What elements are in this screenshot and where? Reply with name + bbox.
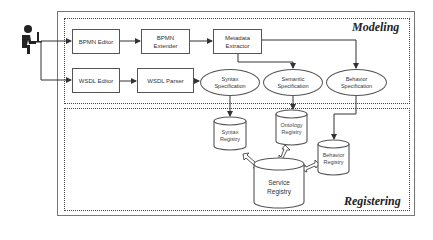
behavior-spec-line2: Specification — [341, 83, 372, 90]
metadata-extractor-node: Metadata Extractor — [213, 29, 262, 54]
bpmn-editor-label: BPMN Editor — [79, 38, 114, 46]
syntax-spec-line1: Syntax — [222, 76, 239, 83]
semantic-specification-node: Semantic Specification — [263, 69, 323, 96]
metadata-extractor-line2: Extractor — [225, 42, 249, 50]
service-registry-node: Service Registry — [254, 178, 304, 196]
wsdl-parser-label: WSDL Parser — [147, 77, 183, 85]
wsdl-parser-node: WSDL Parser — [137, 68, 194, 93]
bpmn-editor-node: BPMN Editor — [72, 29, 120, 54]
metadata-extractor-line1: Metadata — [225, 34, 250, 42]
behavior-specification-node: Behavior Specification — [326, 69, 387, 96]
user-at-computer-icon — [22, 25, 42, 54]
bpmn-extender-line2: Extender — [153, 42, 177, 50]
service-registry-line1: Service — [254, 178, 304, 187]
syntax-registry-line1: Syntax — [214, 129, 246, 136]
wsdl-editor-label: WSDL Editor — [79, 77, 113, 85]
behavior-registry-line2: Registry — [318, 159, 349, 166]
syntax-specification-node: Syntax Specification — [200, 69, 260, 96]
ontology-registry-line1: Ontology — [276, 122, 307, 129]
syntax-spec-line2: Specification — [214, 83, 245, 90]
behavior-spec-line1: Behavior — [346, 76, 368, 83]
syntax-registry-line2: Registry — [214, 136, 246, 143]
semantic-spec-line1: Semantic — [282, 76, 305, 83]
behavior-registry-line1: Behavior — [318, 152, 349, 159]
semantic-spec-line2: Specification — [277, 83, 308, 90]
bpmn-extender-line1: BPMN — [157, 34, 174, 42]
wsdl-editor-node: WSDL Editor — [72, 68, 120, 93]
ontology-registry-node: Ontology Registry — [276, 122, 307, 136]
behavior-registry-node: Behavior Registry — [318, 152, 349, 166]
syntax-registry-node: Syntax Registry — [214, 129, 246, 143]
service-registry-line2: Registry — [254, 187, 304, 196]
bpmn-extender-node: BPMN Extender — [141, 29, 190, 54]
ontology-registry-line2: Registry — [276, 129, 307, 136]
